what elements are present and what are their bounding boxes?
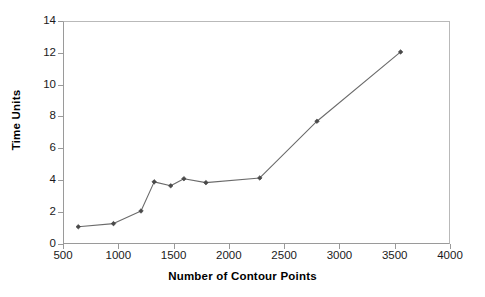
x-axis-tick-mark: [339, 244, 340, 249]
x-axis-tick-label: 3500: [382, 250, 408, 262]
y-axis-tick-label: 6: [50, 142, 56, 154]
x-axis-tick-label: 3000: [327, 250, 353, 262]
y-axis-tick-label: 14: [43, 15, 56, 27]
x-axis-tick-mark: [63, 244, 64, 249]
data-point-marker: [111, 221, 116, 226]
data-point-marker: [182, 176, 187, 181]
x-axis-title: Number of Contour Points: [0, 270, 485, 282]
y-axis-tick-label: 8: [50, 111, 56, 123]
x-axis-tick-label: 1000: [105, 250, 131, 262]
chart-container: 02468101214 5001000150020002500300035004…: [0, 0, 485, 297]
x-axis-tick-mark: [284, 244, 285, 249]
x-axis-tick-label: 4000: [437, 250, 463, 262]
y-axis-tick-label: 12: [43, 47, 56, 59]
x-axis-tick-mark: [395, 244, 396, 249]
x-axis-tick-label: 2500: [271, 250, 297, 262]
x-axis-tick-label: 500: [53, 250, 72, 262]
x-axis-tick-label: 1500: [161, 250, 187, 262]
y-axis-tick-label-group: 02468101214: [0, 0, 56, 297]
plot-area: [63, 21, 450, 244]
data-point-marker: [152, 180, 157, 185]
y-axis-tick-label: 4: [50, 174, 56, 186]
y-axis-tick-label: 2: [50, 206, 56, 218]
data-point-marker: [168, 184, 173, 189]
data-point-marker: [204, 180, 209, 185]
x-axis-tick-label: 2000: [216, 250, 242, 262]
x-axis-tick-mark: [174, 244, 175, 249]
series-line: [78, 52, 400, 227]
series-marker-group: [76, 50, 403, 229]
x-axis-tick-mark: [118, 244, 119, 249]
y-axis-title: Time Units: [10, 60, 22, 180]
y-axis-tick-label: 0: [50, 238, 56, 250]
data-point-marker: [139, 209, 144, 214]
y-axis-tick-label: 10: [43, 79, 56, 91]
data-point-marker: [76, 224, 81, 229]
series-svg: [64, 22, 449, 243]
x-axis-tick-mark: [229, 244, 230, 249]
x-axis-tick-mark: [450, 244, 451, 249]
